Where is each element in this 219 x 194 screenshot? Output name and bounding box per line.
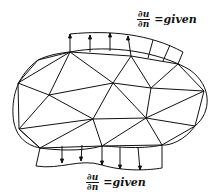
bottom-derivative-fraction: ∂u ∂n (86, 173, 99, 192)
mesh-interior-edges (18, 52, 204, 148)
top-boundary-condition-label: ∂u ∂n =given (137, 10, 197, 29)
top-rhs: =given (154, 13, 196, 26)
bottom-flux-arrows (36, 145, 162, 170)
bottom-rhs: =given (103, 176, 145, 189)
top-derivative-fraction: ∂u ∂n (137, 10, 150, 29)
bottom-boundary-condition-label: ∂u ∂n =given (86, 173, 146, 192)
bottom-denominator: ∂n (87, 183, 98, 192)
top-denominator: ∂n (138, 20, 149, 29)
fem-mesh-diagram (0, 0, 219, 194)
